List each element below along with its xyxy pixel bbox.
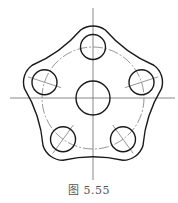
centerlines	[10, 8, 175, 180]
technical-drawing	[0, 0, 178, 180]
figure-caption: 图 5.55	[0, 183, 178, 199]
pentagonal-flange-drawing	[0, 0, 178, 180]
